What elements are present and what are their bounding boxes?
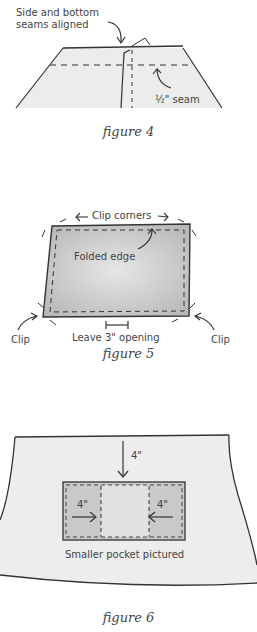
- caption-figure-5: figure 5: [0, 346, 257, 361]
- label-clip-right: Clip: [211, 334, 230, 345]
- caption-figure-4: figure 4: [0, 124, 257, 139]
- caption-figure-6: figure 6: [0, 610, 257, 625]
- label-clip-corners: Clip corners: [92, 210, 151, 221]
- label-leave-opening: Leave 3" opening: [72, 332, 160, 343]
- label-measure-top: 4": [131, 450, 142, 461]
- figure-5: Clip corners Folded edge Clip Clip Leave…: [0, 180, 257, 360]
- label-measure-left: 4": [77, 499, 88, 510]
- label-clip-left: Clip: [11, 334, 30, 345]
- figure-4: Side and bottom seams aligned ½" seam fi…: [0, 0, 257, 150]
- label-seams-aligned-1: Side and bottom: [16, 7, 99, 18]
- label-folded-edge: Folded edge: [74, 251, 135, 262]
- figure-6: 4" 4" 4" Smaller pocket pictured figure …: [0, 400, 257, 632]
- label-seams-aligned-2: seams aligned: [16, 19, 89, 30]
- label-smaller-pocket: Smaller pocket pictured: [65, 549, 184, 560]
- label-measure-right: 4": [157, 499, 168, 510]
- figure-6-illustration: [0, 400, 257, 632]
- label-half-inch-seam: ½" seam: [155, 94, 200, 105]
